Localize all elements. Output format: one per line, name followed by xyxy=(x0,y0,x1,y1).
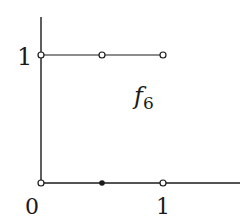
y-tick-label: 1 xyxy=(17,43,32,71)
open-point-0-0 xyxy=(38,180,44,186)
filled-point-half-0 xyxy=(99,180,105,186)
function-diagram: 1 0 1 f6 xyxy=(0,0,251,221)
x-tick-label: 1 xyxy=(156,194,170,219)
x-origin-label: 0 xyxy=(25,194,39,219)
open-point-half-1 xyxy=(99,52,105,58)
function-label: f6 xyxy=(132,82,154,113)
function-subscript: 6 xyxy=(143,93,154,113)
open-point-1-0 xyxy=(160,180,166,186)
open-point-1-1 xyxy=(160,52,166,58)
open-point-0-1 xyxy=(38,52,44,58)
